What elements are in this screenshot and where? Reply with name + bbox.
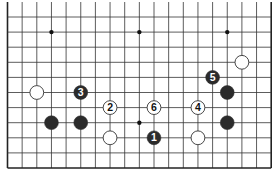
white-stone-icon	[191, 131, 205, 145]
go-board: 326145	[0, 0, 278, 180]
star-point-icon	[137, 30, 141, 34]
stone-move-number: 5	[210, 71, 216, 83]
black-stone-icon	[220, 86, 234, 100]
black-stone	[74, 116, 88, 130]
white-stone-6: 6	[147, 101, 161, 115]
white-stone-icon	[30, 86, 44, 100]
stone-move-number: 3	[78, 86, 84, 98]
black-stone-icon	[74, 116, 88, 130]
black-stone	[45, 116, 59, 130]
white-stone-icon	[235, 55, 249, 69]
stone-move-number: 4	[195, 101, 201, 113]
star-point-icon	[49, 30, 53, 34]
black-stone-5: 5	[206, 71, 220, 85]
black-stone-icon	[45, 116, 59, 130]
board-grid	[8, 2, 272, 168]
black-stone-3: 3	[74, 86, 88, 100]
stone-move-number: 1	[151, 131, 157, 143]
stone-move-number: 2	[107, 101, 113, 113]
black-stone-icon	[220, 116, 234, 130]
black-stone	[220, 86, 234, 100]
white-stone-4: 4	[191, 101, 205, 115]
white-stone-2: 2	[103, 101, 117, 115]
star-point-icon	[225, 30, 229, 34]
white-stone	[103, 131, 117, 145]
black-stone	[220, 116, 234, 130]
stone-move-number: 6	[151, 101, 157, 113]
white-stone	[235, 55, 249, 69]
white-stone	[191, 131, 205, 145]
black-stone-1: 1	[147, 131, 161, 145]
white-stone-icon	[103, 131, 117, 145]
white-stone	[30, 86, 44, 100]
star-point-icon	[137, 121, 141, 125]
